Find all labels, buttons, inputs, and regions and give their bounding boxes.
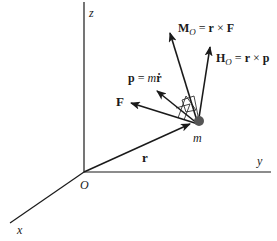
moment-vector-MO	[170, 33, 198, 124]
position-vector-r	[84, 124, 190, 172]
force-vector-F	[131, 103, 198, 124]
angular-momentum-vector-HO	[198, 47, 210, 124]
momentum-label: p = mṙ	[128, 71, 162, 85]
angular-momentum-label: HO = r × p	[216, 51, 270, 67]
particle-label: m	[193, 131, 202, 145]
force-label: F	[116, 94, 124, 109]
moment-label: MO = r × F	[178, 21, 234, 37]
y-axis-label: y	[256, 154, 263, 168]
position-vector-label: r	[142, 150, 148, 165]
coordinate-axes	[10, 2, 271, 223]
vector-diagram: z y x O r m F p = mṙ MO = r × F HO = r ×…	[0, 0, 277, 241]
x-axis-label: x	[16, 223, 23, 237]
momentum-vector-p	[157, 91, 198, 124]
particle-m	[194, 116, 204, 126]
origin-label: O	[80, 178, 89, 192]
z-axis-label: z	[88, 6, 94, 20]
x-axis	[10, 172, 84, 223]
